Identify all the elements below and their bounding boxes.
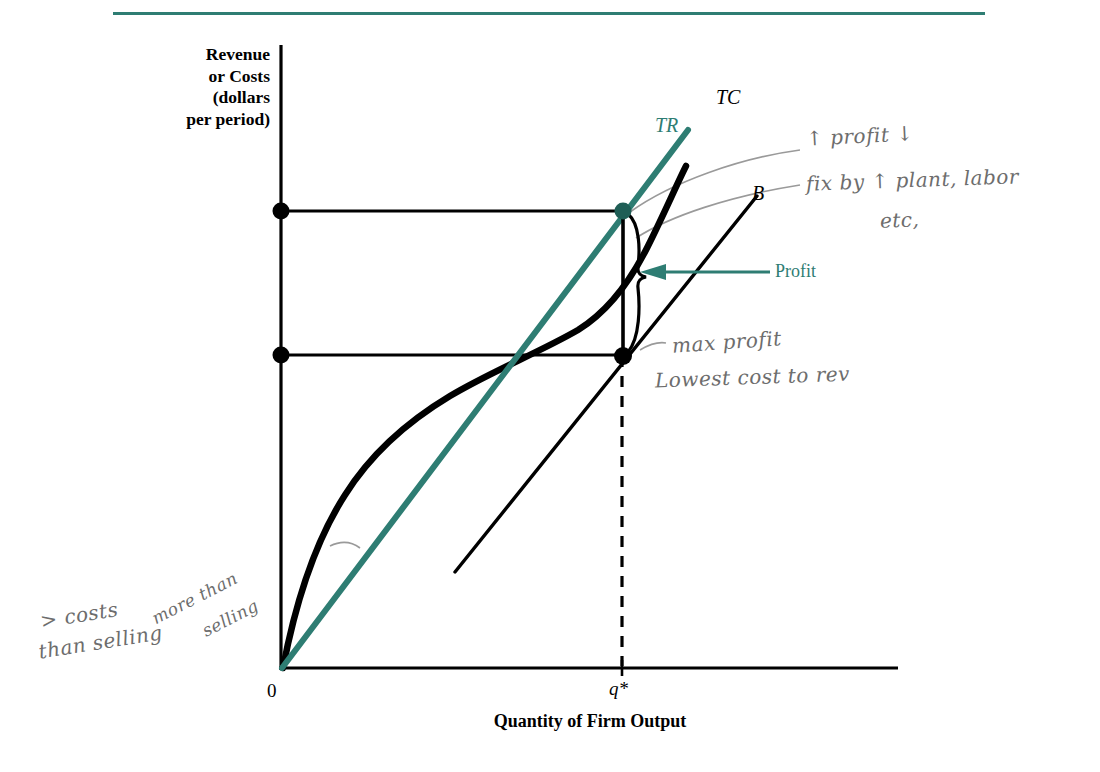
label-total-revenue: TR xyxy=(655,114,678,137)
total-cost-curve xyxy=(283,166,686,668)
label-total-cost: TC xyxy=(716,86,740,109)
pencil-leader-profit xyxy=(630,150,800,212)
marker-y-cost xyxy=(273,347,290,364)
pencil-leader-maxprofit xyxy=(640,343,666,350)
marker-y-revenue xyxy=(273,203,290,220)
label-tangent-b: B xyxy=(752,182,764,205)
data-point-markers xyxy=(273,203,633,366)
handwriting-etc: etc, xyxy=(880,207,920,232)
plot-canvas xyxy=(0,0,1100,772)
profit-brace xyxy=(628,214,646,352)
marker-tc-at-qstar xyxy=(614,347,632,365)
figure-root: Revenue or Costs (dollars per period) Qu… xyxy=(0,0,1100,772)
profit-callout-label: Profit xyxy=(775,261,816,282)
profit-callout-arrow xyxy=(640,264,770,280)
pencil-leader-costs xyxy=(330,542,360,548)
marker-tr-at-qstar xyxy=(615,203,632,220)
